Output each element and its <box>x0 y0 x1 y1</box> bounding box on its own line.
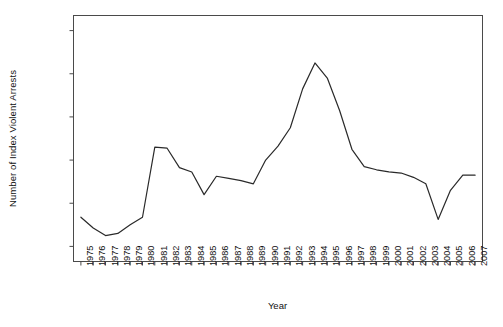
x-tick-label: 1976 <box>97 246 107 266</box>
x-tick-label: 1987 <box>233 246 243 266</box>
x-tick-label: 1999 <box>381 246 391 266</box>
x-tick-label: 1982 <box>171 246 181 266</box>
x-tick-label: 1994 <box>319 246 329 266</box>
x-tick-label: 2000 <box>393 246 403 266</box>
x-tick-label: 1997 <box>356 246 366 266</box>
x-tick-label: 1985 <box>208 246 218 266</box>
plot-frame <box>74 16 483 262</box>
x-tick-label: 1989 <box>257 246 267 266</box>
x-tick-label: 2007 <box>479 246 489 266</box>
line-chart-plot <box>0 0 503 327</box>
x-tick-label: 1993 <box>307 246 317 266</box>
x-tick-label: 1981 <box>159 246 169 266</box>
x-tick-label: 2003 <box>430 246 440 266</box>
x-tick-label: 1979 <box>134 246 144 266</box>
y-axis-ticks <box>70 31 74 247</box>
x-tick-label: 2001 <box>405 246 415 266</box>
x-tick-label: 1975 <box>85 246 95 266</box>
x-tick-label: 1992 <box>294 246 304 266</box>
x-tick-label: 1988 <box>245 246 255 266</box>
x-axis-title: Year <box>73 300 482 311</box>
data-series-line <box>81 63 475 236</box>
figure-caption <box>4 318 499 327</box>
x-tick-label: 2006 <box>467 246 477 266</box>
x-tick-label: 2004 <box>442 246 452 266</box>
x-tick-label: 1986 <box>220 246 230 266</box>
y-axis-title: Number of Index Violent Arrests <box>6 15 20 262</box>
x-tick-label: 1995 <box>331 246 341 266</box>
x-tick-label: 1980 <box>146 246 156 266</box>
x-tick-label: 1998 <box>368 246 378 266</box>
x-tick-label: 2005 <box>454 246 464 266</box>
x-tick-label: 2002 <box>418 246 428 266</box>
x-tick-label: 1990 <box>270 246 280 266</box>
x-tick-label: 1978 <box>122 246 132 266</box>
x-tick-label: 1996 <box>344 246 354 266</box>
x-tick-label: 1991 <box>282 246 292 266</box>
x-tick-label: 1984 <box>196 246 206 266</box>
x-tick-label: 1977 <box>110 246 120 266</box>
x-tick-label: 1983 <box>183 246 193 266</box>
figure-container: 400006000080000100000120000140000 Number… <box>0 0 503 327</box>
